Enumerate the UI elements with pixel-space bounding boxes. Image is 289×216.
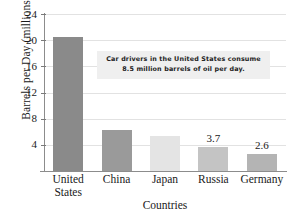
y-tick-label: 20 bbox=[15, 35, 37, 46]
y-tick-mark bbox=[41, 145, 46, 146]
bar-japan bbox=[150, 136, 180, 171]
bar-value-label: 3.7 bbox=[193, 133, 233, 144]
category-label-line: States bbox=[44, 186, 92, 199]
category-label-line: United bbox=[44, 173, 92, 186]
category-label-line: Germany bbox=[238, 173, 286, 186]
annotation-line-1: Car drivers in the United States consume bbox=[100, 55, 267, 65]
y-tick-label: 16 bbox=[15, 61, 37, 72]
y-tick-label: 12 bbox=[15, 87, 37, 98]
top-cropped-caption bbox=[178, 0, 288, 4]
bar-united-states bbox=[53, 37, 83, 171]
bar-china bbox=[102, 130, 132, 171]
y-tick-mark bbox=[41, 14, 46, 15]
bar-russia bbox=[198, 147, 228, 171]
y-tick-label: 8 bbox=[15, 113, 37, 124]
y-tick-mark bbox=[41, 40, 46, 41]
bar-chart-figure: Barrels per Day (millions) Car drivers i… bbox=[0, 0, 289, 216]
x-axis-title: Countries bbox=[44, 199, 286, 211]
category-label-germany: Germany bbox=[238, 173, 286, 186]
y-tick-label: 4 bbox=[15, 139, 37, 150]
category-label-russia: Russia bbox=[189, 173, 237, 186]
y-tick-mark bbox=[41, 66, 46, 67]
bar-germany bbox=[247, 154, 277, 171]
y-tick-mark bbox=[41, 93, 46, 94]
category-label-united-states: UnitedStates bbox=[44, 173, 92, 199]
x-axis-line bbox=[40, 171, 287, 172]
category-label-line: China bbox=[92, 173, 140, 186]
category-label-line: Russia bbox=[189, 173, 237, 186]
annotation-callout: Car drivers in the United States consume… bbox=[97, 51, 270, 79]
bar-value-label: 2.6 bbox=[242, 140, 282, 151]
y-tick-mark bbox=[41, 119, 46, 120]
category-label-china: China bbox=[92, 173, 140, 186]
y-tick-label: 24 bbox=[15, 9, 37, 20]
category-label-line: Japan bbox=[141, 173, 189, 186]
annotation-line-2: 8.5 million barrels of oil per day. bbox=[100, 65, 267, 75]
category-label-japan: Japan bbox=[141, 173, 189, 186]
